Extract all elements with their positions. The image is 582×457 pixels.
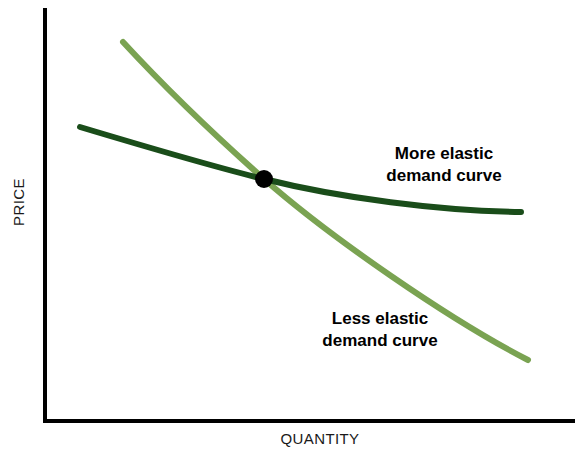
more-elastic-label-line1: More elastic bbox=[360, 143, 528, 165]
less-elastic-label-line1: Less elastic bbox=[296, 308, 464, 330]
chart-plot-area bbox=[0, 0, 582, 457]
less-elastic-curve-label: Less elastic demand curve bbox=[296, 308, 464, 352]
intersection-point-marker bbox=[255, 170, 273, 188]
chart-figure: PRICE QUANTITY More elastic demand curve… bbox=[0, 0, 582, 457]
y-axis-label: PRICE bbox=[10, 186, 27, 226]
more-elastic-curve-label: More elastic demand curve bbox=[360, 143, 528, 187]
more-elastic-label-line2: demand curve bbox=[360, 165, 528, 187]
less-elastic-label-line2: demand curve bbox=[296, 330, 464, 352]
x-axis-label: QUANTITY bbox=[210, 430, 430, 447]
